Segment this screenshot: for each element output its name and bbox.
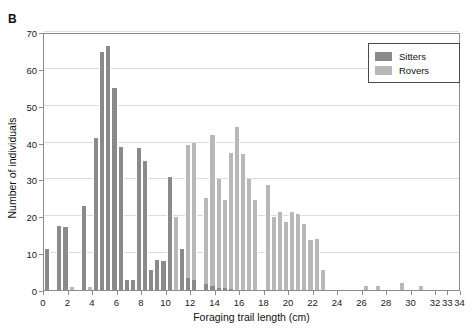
x-tick-label: 2 <box>65 297 70 308</box>
bar-rovers <box>320 270 326 290</box>
x-tick-label: 10 <box>160 297 171 308</box>
y-tick-label: 30 <box>26 175 37 186</box>
bar-sitters <box>191 280 197 290</box>
x-tick-mark <box>117 291 118 295</box>
bar-rovers <box>418 286 424 290</box>
x-tick-label: 12 <box>185 297 196 308</box>
x-tick-label: 32 <box>430 297 441 308</box>
x-tick-label: 22 <box>307 297 318 308</box>
x-tick-label: 18 <box>258 297 269 308</box>
y-tick-label: 40 <box>26 138 37 149</box>
x-tick-label: 6 <box>114 297 119 308</box>
gridline <box>44 31 459 32</box>
x-tick-mark <box>43 291 44 295</box>
x-tick-mark <box>92 291 93 295</box>
x-tick-mark <box>313 291 314 295</box>
x-tick-mark <box>435 291 436 295</box>
legend-label: Sitters <box>399 51 426 62</box>
legend-label: Rovers <box>399 65 429 76</box>
bar-sitters <box>44 249 50 290</box>
bar-sitters <box>81 206 87 290</box>
y-tick-label: 0 <box>32 286 37 297</box>
x-tick-mark <box>141 291 142 295</box>
x-tick-mark <box>190 291 191 295</box>
bar-sitters <box>118 147 124 290</box>
legend-swatch-sitters <box>375 52 392 61</box>
y-tick-label: 60 <box>26 64 37 75</box>
x-tick-label: 33 <box>442 297 453 308</box>
x-tick-mark <box>215 291 216 295</box>
bar-rovers <box>252 200 258 290</box>
x-tick-label: 28 <box>381 297 392 308</box>
y-tick-label: 10 <box>26 249 37 260</box>
x-tick-mark <box>166 291 167 295</box>
x-tick-label: 30 <box>405 297 416 308</box>
y-tick-label: 70 <box>26 28 37 39</box>
bar-rovers <box>399 283 405 290</box>
x-tick-label: 20 <box>283 297 294 308</box>
bar-rovers <box>69 287 75 290</box>
x-axis-ticks: 024681012141618202224262830323334 <box>43 291 460 313</box>
x-tick-label: 26 <box>356 297 367 308</box>
x-tick-label: 4 <box>89 297 94 308</box>
figure-panel-b: B Number of individuals 010203040506070 … <box>0 0 472 332</box>
x-tick-label: 34 <box>454 297 465 308</box>
x-axis-title: Foraging trail length (cm) <box>43 311 460 323</box>
bar-rovers <box>375 286 381 290</box>
bar-rovers <box>363 286 369 290</box>
x-tick-mark <box>447 291 448 295</box>
panel-label: B <box>8 12 17 26</box>
legend-item: Rovers <box>375 63 453 77</box>
x-tick-mark <box>68 291 69 295</box>
bar-sitters <box>62 227 68 290</box>
x-tick-mark <box>288 291 289 295</box>
y-tick-label: 50 <box>26 101 37 112</box>
x-tick-mark <box>264 291 265 295</box>
x-tick-mark <box>460 291 461 295</box>
y-tick-label: 20 <box>26 212 37 223</box>
x-tick-mark <box>362 291 363 295</box>
x-tick-label: 24 <box>332 297 343 308</box>
y-axis-ticks: 010203040506070 <box>0 33 43 291</box>
legend: SittersRovers <box>368 43 460 83</box>
bar-rovers <box>191 143 197 290</box>
x-tick-label: 8 <box>138 297 143 308</box>
legend-item: Sitters <box>375 49 453 63</box>
x-tick-mark <box>239 291 240 295</box>
x-tick-mark <box>337 291 338 295</box>
legend-swatch-rovers <box>375 66 392 75</box>
x-tick-label: 16 <box>234 297 245 308</box>
x-tick-mark <box>411 291 412 295</box>
x-tick-label: 14 <box>209 297 220 308</box>
x-tick-mark <box>386 291 387 295</box>
x-tick-label: 0 <box>40 297 45 308</box>
